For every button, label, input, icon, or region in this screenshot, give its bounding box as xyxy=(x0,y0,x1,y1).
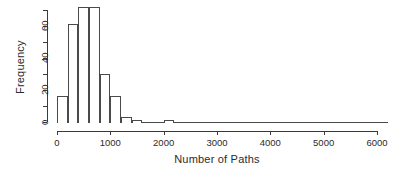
histogram-bar xyxy=(270,122,281,123)
x-axis-tick xyxy=(164,131,165,135)
histogram-plot: Frequency 0204060 0100020003000400050006… xyxy=(0,0,398,175)
histogram-bar xyxy=(132,120,143,123)
histogram-bar xyxy=(110,96,121,123)
histogram-bar xyxy=(100,74,111,123)
histogram-bar xyxy=(89,7,100,123)
histogram-bar xyxy=(302,122,313,123)
x-axis-tick-label: 3000 xyxy=(197,137,237,148)
histogram-bar xyxy=(334,122,345,123)
x-axis-tick xyxy=(110,131,111,135)
x-axis-tick-label: 4000 xyxy=(250,137,290,148)
histogram-bar xyxy=(228,122,239,123)
histogram-bar xyxy=(366,122,377,123)
histogram-bar xyxy=(345,122,356,123)
x-axis-tick xyxy=(324,131,325,135)
histogram-bar xyxy=(57,96,68,123)
histogram-bar xyxy=(324,122,335,123)
y-axis-tick-label: 40 xyxy=(39,53,50,64)
histogram-bar xyxy=(185,122,196,123)
x-axis-tick xyxy=(377,131,378,135)
y-axis-title: Frequency xyxy=(14,40,26,94)
x-axis-tick xyxy=(57,131,58,135)
x-axis-tick xyxy=(270,131,271,135)
x-axis-tick-label: 1000 xyxy=(90,137,130,148)
histogram-bar xyxy=(196,122,207,123)
histogram-bar xyxy=(313,122,324,123)
histogram-bar xyxy=(121,117,132,123)
y-axis-tick xyxy=(43,10,47,11)
x-axis-tick-label: 6000 xyxy=(357,137,397,148)
x-axis-tick-label: 2000 xyxy=(144,137,184,148)
histogram-bar xyxy=(356,122,367,123)
histogram-bar xyxy=(217,122,228,123)
histogram-bar xyxy=(174,122,185,123)
histogram-bar xyxy=(377,122,388,123)
histogram-bar xyxy=(164,120,175,123)
y-axis-tick-label: 0 xyxy=(39,119,50,124)
histogram-bar xyxy=(142,122,153,123)
histogram-bar xyxy=(153,122,164,123)
histogram-bar xyxy=(292,122,303,123)
y-axis-tick-label: 60 xyxy=(39,21,50,32)
y-axis-tick xyxy=(43,74,47,75)
histogram-bar xyxy=(238,122,249,123)
y-axis-tick-label: 20 xyxy=(39,85,50,96)
y-axis-tick xyxy=(43,42,47,43)
y-axis-tick xyxy=(43,106,47,107)
histogram-bar xyxy=(206,122,217,123)
histogram-bar xyxy=(260,122,271,123)
x-axis-title: Number of Paths xyxy=(137,153,297,165)
histogram-bar xyxy=(78,7,89,123)
x-axis-tick-label: 5000 xyxy=(304,137,344,148)
histogram-bar xyxy=(281,122,292,123)
histogram-bar xyxy=(68,24,79,123)
x-axis-tick xyxy=(217,131,218,135)
x-axis-tick-label: 0 xyxy=(37,137,77,148)
histogram-bar xyxy=(249,122,260,123)
